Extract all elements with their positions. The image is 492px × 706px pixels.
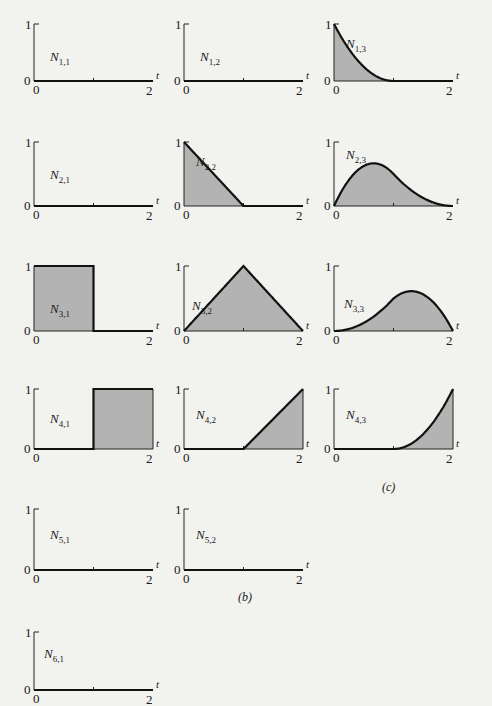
x-tick-label-0: 0: [183, 571, 190, 586]
x-tick-label-2: 2: [296, 83, 303, 98]
y-tick-label-0: 0: [24, 441, 31, 456]
x-axis-label: t: [306, 194, 310, 206]
x-tick-label-0: 0: [333, 82, 340, 97]
function-label: N2,1: [50, 167, 70, 185]
function-label: N1,2: [200, 49, 220, 67]
y-tick-label-1: 1: [25, 382, 32, 397]
y-tick-label-0: 0: [174, 323, 181, 338]
filled-area: [184, 142, 303, 206]
x-tick-label-2: 2: [146, 333, 153, 348]
x-tick-label-2: 2: [146, 208, 153, 223]
x-axis-label: t: [456, 69, 460, 81]
filled-area: [334, 163, 453, 206]
panel-N51: 1002t: [24, 502, 160, 587]
x-tick-label-2: 2: [146, 572, 153, 587]
panel-N31: 1002t: [24, 259, 160, 348]
y-tick-label-1: 1: [25, 259, 32, 274]
y-tick-label-1: 1: [25, 17, 32, 32]
x-tick-label-2: 2: [446, 333, 453, 348]
x-tick-label-2: 2: [296, 333, 303, 348]
y-tick-label-0: 0: [24, 73, 31, 88]
function-label: N1,3: [346, 36, 366, 54]
y-tick-label-1: 1: [325, 135, 332, 150]
y-tick-label-0: 0: [24, 323, 31, 338]
x-axis-label: t: [156, 678, 160, 690]
y-tick-label-0: 0: [24, 562, 31, 577]
x-axis-label: t: [156, 437, 160, 449]
function-label: N2,3: [346, 147, 366, 165]
x-tick-label-2: 2: [446, 208, 453, 223]
function-label: N3,2: [192, 298, 212, 316]
x-axis-label: t: [306, 437, 310, 449]
x-tick-label-0: 0: [333, 332, 340, 347]
panel-N12: 1002t: [174, 17, 310, 98]
x-tick-label-2: 2: [296, 451, 303, 466]
panel-label-b: (b): [238, 590, 252, 605]
y-tick-label-0: 0: [24, 198, 31, 213]
x-tick-label-0: 0: [33, 450, 40, 465]
function-label: N5,1: [50, 527, 70, 545]
y-tick-label-1: 1: [175, 502, 182, 517]
y-tick-label-1: 1: [25, 502, 32, 517]
y-tick-label-0: 0: [324, 323, 331, 338]
y-tick-label-0: 0: [174, 198, 181, 213]
y-tick-label-1: 1: [175, 382, 182, 397]
x-tick-label-0: 0: [33, 82, 40, 97]
y-tick-label-1: 1: [175, 259, 182, 274]
x-tick-label-2: 2: [296, 572, 303, 587]
y-tick-label-0: 0: [174, 562, 181, 577]
x-axis-label: t: [156, 319, 160, 331]
panel-N22: 1002t: [174, 135, 310, 223]
x-tick-label-2: 2: [146, 451, 153, 466]
y-tick-label-1: 1: [325, 17, 332, 32]
panel-label-c: (c): [382, 480, 395, 495]
x-axis-label: t: [306, 69, 310, 81]
x-tick-label-2: 2: [296, 208, 303, 223]
x-axis-label: t: [456, 194, 460, 206]
panel-N11: 1002t: [24, 17, 160, 98]
x-tick-label-2: 2: [446, 451, 453, 466]
y-tick-label-1: 1: [175, 17, 182, 32]
x-axis-label: t: [156, 558, 160, 570]
panel-N23: 1002t: [324, 135, 460, 223]
x-axis-label: t: [306, 319, 310, 331]
function-label: N3,3: [344, 296, 364, 314]
function-label: N4,2: [196, 407, 216, 425]
function-label: N4,3: [346, 407, 366, 425]
x-tick-label-0: 0: [183, 450, 190, 465]
x-axis-label: t: [456, 319, 460, 331]
x-tick-label-0: 0: [33, 571, 40, 586]
function-label: N6,1: [44, 646, 64, 664]
x-axis-label: t: [306, 558, 310, 570]
y-tick-label-0: 0: [324, 198, 331, 213]
panel-N43: 1002t: [324, 382, 460, 466]
function-label: N4,1: [50, 411, 70, 429]
panel-N13: 1002t: [324, 17, 460, 98]
x-tick-label-0: 0: [183, 82, 190, 97]
function-label: N3,1: [50, 301, 70, 319]
y-tick-label-0: 0: [324, 73, 331, 88]
function-label: N1,1: [50, 49, 70, 67]
x-tick-label-0: 0: [333, 450, 340, 465]
y-tick-label-1: 1: [25, 135, 32, 150]
y-tick-label-1: 1: [325, 382, 332, 397]
x-axis-label: t: [156, 194, 160, 206]
x-axis-label: t: [456, 437, 460, 449]
x-tick-label-0: 0: [333, 207, 340, 222]
panel-N41: 1002t: [24, 382, 160, 466]
x-tick-label-0: 0: [183, 207, 190, 222]
panel-N21: 1002t: [24, 135, 160, 223]
y-tick-label-1: 1: [325, 259, 332, 274]
x-tick-label-2: 2: [146, 83, 153, 98]
x-tick-label-0: 0: [33, 332, 40, 347]
panel-N61: 1002t: [24, 625, 160, 706]
y-tick-label-0: 0: [174, 441, 181, 456]
y-tick-label-1: 1: [25, 625, 32, 640]
y-tick-label-0: 0: [174, 73, 181, 88]
x-tick-label-0: 0: [183, 332, 190, 347]
function-label: N5,2: [196, 527, 216, 545]
x-tick-label-0: 0: [33, 207, 40, 222]
panel-N42: 1002t: [174, 382, 310, 466]
x-tick-label-0: 0: [33, 691, 40, 706]
y-tick-label-0: 0: [324, 441, 331, 456]
